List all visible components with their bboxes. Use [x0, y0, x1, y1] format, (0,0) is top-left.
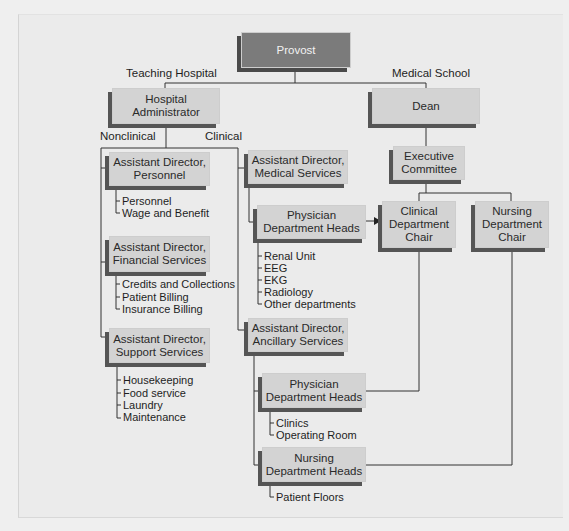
- asst-director-personnel-label: Assistant Director, Personnel: [113, 156, 206, 182]
- teaching-hospital-label: Teaching Hospital: [126, 67, 217, 79]
- nonclinical-label: Nonclinical: [100, 130, 156, 142]
- eeg-item: EEG: [264, 262, 287, 274]
- housekeeping-item: Housekeeping: [123, 374, 193, 386]
- wage-benefit-item: Wage and Benefit: [122, 207, 209, 219]
- executive-committee-box: Executive Committee: [393, 146, 465, 180]
- physician-heads-medical-label: Physician Department Heads: [263, 209, 360, 235]
- asst-director-support-label: Assistant Director, Support Services: [113, 333, 206, 359]
- asst-director-ancillary-label: Assistant Director, Ancillary Services: [252, 322, 345, 348]
- credits-collections-item: Credits and Collections: [122, 278, 235, 290]
- dean-box: Dean: [372, 88, 480, 124]
- asst-director-personnel-box: Assistant Director, Personnel: [109, 152, 210, 186]
- radiology-item: Radiology: [264, 286, 313, 298]
- maintenance-item: Maintenance: [123, 411, 186, 423]
- medical-school-label: Medical School: [392, 67, 470, 79]
- provost-box: Provost: [241, 32, 351, 68]
- patient-billing-item: Patient Billing: [122, 291, 189, 303]
- asst-director-support-box: Assistant Director, Support Services: [109, 328, 210, 363]
- nursing-heads-label: Nursing Department Heads: [266, 452, 363, 478]
- physician-heads-medical-box: Physician Department Heads: [257, 205, 366, 239]
- asst-director-medical-box: Assistant Director, Medical Services: [248, 150, 348, 184]
- operating-room-item: Operating Room: [276, 429, 357, 441]
- other-departments-item: Other departments: [264, 298, 356, 310]
- asst-director-medical-label: Assistant Director, Medical Services: [252, 154, 345, 180]
- renal-unit-item: Renal Unit: [264, 250, 315, 262]
- insurance-billing-item: Insurance Billing: [122, 303, 203, 315]
- physician-heads-ancillary-label: Physician Department Heads: [266, 378, 363, 404]
- asst-director-ancillary-box: Assistant Director, Ancillary Services: [248, 318, 348, 352]
- clinical-department-chair-box: Clinical Department Chair: [382, 201, 456, 248]
- clinical-label: Clinical: [205, 130, 242, 142]
- nursing-heads-box: Nursing Department Heads: [262, 447, 366, 482]
- provost-label: Provost: [277, 44, 316, 57]
- food-service-item: Food service: [123, 387, 186, 399]
- personnel-item: Personnel: [122, 195, 172, 207]
- patient-floors-item: Patient Floors: [276, 491, 344, 503]
- nursing-department-chair-label: Nursing Department Chair: [482, 205, 542, 244]
- executive-committee-label: Executive Committee: [401, 150, 457, 176]
- hospital-administrator-label: Hospital Administrator: [132, 93, 200, 119]
- clinics-item: Clinics: [276, 417, 308, 429]
- ekg-item: EKG: [264, 274, 287, 286]
- nursing-department-chair-box: Nursing Department Chair: [475, 201, 549, 248]
- laundry-item: Laundry: [123, 399, 163, 411]
- physician-heads-ancillary-box: Physician Department Heads: [262, 373, 366, 408]
- asst-director-financial-label: Assistant Director, Financial Services: [113, 241, 206, 267]
- asst-director-financial-box: Assistant Director, Financial Services: [109, 236, 210, 272]
- diagram-frame: [18, 14, 563, 518]
- dean-label: Dean: [412, 100, 440, 113]
- hospital-administrator-box: Hospital Administrator: [112, 88, 220, 124]
- clinical-department-chair-label: Clinical Department Chair: [389, 205, 449, 244]
